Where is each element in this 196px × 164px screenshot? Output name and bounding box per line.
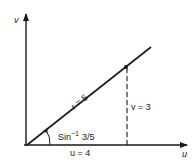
vertical-leg-label: v = 3 [131, 102, 151, 112]
hypotenuse-label: r = 5 [69, 92, 90, 111]
v-axis-label: v [14, 15, 19, 25]
angle-label: Sin−13/5 [58, 130, 95, 142]
u-axis-label: u [182, 149, 187, 159]
horizontal-leg-label: u = 4 [70, 148, 90, 158]
polar-triangle-diagram: v u r = 5 v = 3 u = 4 Sin−13/5 [0, 0, 196, 164]
